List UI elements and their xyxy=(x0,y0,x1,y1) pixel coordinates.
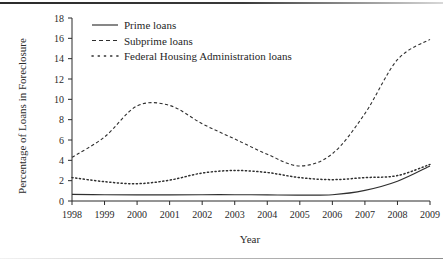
x-tick-label: 1999 xyxy=(95,209,115,220)
y-tick-label: 0 xyxy=(59,196,64,207)
y-tick-label: 6 xyxy=(59,135,64,146)
y-tick-label: 14 xyxy=(54,53,64,64)
x-axis-title: Year xyxy=(240,233,261,245)
line-chart: Percentage of Loans in Foreclosure Year … xyxy=(0,0,443,264)
figure-container: Percentage of Loans in Foreclosure Year … xyxy=(0,0,443,264)
y-tick-label: 4 xyxy=(59,155,64,166)
x-axis-title-label: Year xyxy=(240,233,261,245)
x-tick-label: 2008 xyxy=(387,209,407,220)
series-line-1 xyxy=(72,166,430,195)
legend-label-1: Prime loans xyxy=(124,19,176,31)
x-tick-label: 2005 xyxy=(290,209,310,220)
x-tick-label: 2006 xyxy=(322,209,342,220)
x-tick-label: 2009 xyxy=(420,209,440,220)
x-tick-label: 2007 xyxy=(355,209,375,220)
y-tick-label: 12 xyxy=(54,74,64,85)
y-tick-label: 16 xyxy=(54,33,64,44)
x-tick-label: 2001 xyxy=(160,209,180,220)
y-axis-title: Percentage of Loans in Foreclosure xyxy=(16,38,28,194)
x-tick-label: 2002 xyxy=(192,209,212,220)
x-tick-label: 2003 xyxy=(225,209,245,220)
series-line-3 xyxy=(72,164,430,183)
y-tick-label: 8 xyxy=(59,114,64,125)
legend-label-3: Federal Housing Administration loans xyxy=(124,50,292,62)
y-tick-label: 2 xyxy=(59,175,64,186)
y-tick-label: 10 xyxy=(54,94,64,105)
x-tick-label: 2004 xyxy=(257,209,277,220)
chart-legend: Prime loansSubprime loansFederal Housing… xyxy=(92,19,292,62)
legend-label-2: Subprime loans xyxy=(124,35,193,47)
x-tick-label: 2000 xyxy=(127,209,147,220)
y-axis-ticks: 024681012141618 xyxy=(54,13,72,207)
y-axis-title-label: Percentage of Loans in Foreclosure xyxy=(16,38,28,194)
x-axis-ticks: 1998199920002001200220032004200520062007… xyxy=(62,201,440,220)
y-tick-label: 18 xyxy=(54,13,64,24)
x-tick-label: 1998 xyxy=(62,209,82,220)
data-series-group xyxy=(72,39,430,195)
